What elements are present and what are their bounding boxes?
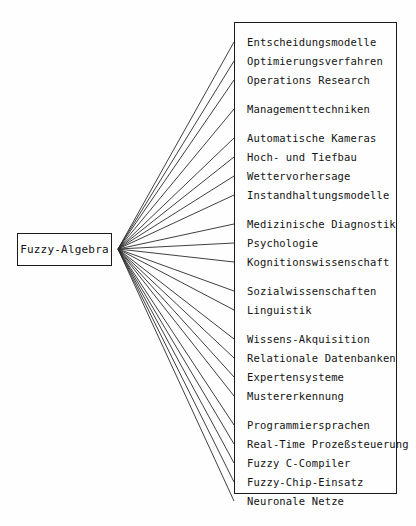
application-item[interactable]: Instandhaltungsmodelle [247,186,389,205]
application-item[interactable]: Managementtechniken [247,100,370,119]
root-node-label: Fuzzy-Algebra [20,243,109,256]
application-item[interactable]: Medizinische Diagnostik [247,215,396,234]
application-item[interactable]: Kognitionswissenschaft [247,253,389,272]
connector-line [118,249,234,463]
application-item[interactable]: Psychologie [247,234,318,253]
application-item[interactable]: Programmiersprachen [247,416,370,435]
application-item[interactable]: Fuzzy-Chip-Einsatz [247,473,364,492]
application-item[interactable]: Relationale Datenbanken [247,349,396,368]
diagram-canvas: Fuzzy-Algebra EntscheidungsmodelleOptimi… [0,0,416,526]
application-item[interactable]: Sozialwissenschaften [247,282,376,301]
application-item[interactable]: Wissens-Akquisition [247,330,370,349]
application-item[interactable]: Neuronale Netze [247,492,344,511]
root-node-fuzzy-algebra[interactable]: Fuzzy-Algebra [17,233,112,266]
application-item[interactable]: Linguistik [247,301,312,320]
connector-line [118,249,234,444]
connector-line [118,249,234,425]
application-item[interactable]: Entscheidungsmodelle [247,33,376,52]
connector-line [118,249,234,377]
application-item[interactable]: Hoch- und Tiefbau [247,148,357,167]
applications-list: EntscheidungsmodelleOptimierungsverfahre… [247,22,407,494]
connector-line [118,42,234,249]
application-item[interactable]: Optimierungsverfahren [247,52,383,71]
application-item[interactable]: Wettervorhersage [247,167,351,186]
connector-line [118,249,234,358]
connector-line [118,249,234,339]
application-item[interactable]: Fuzzy C-Compiler [247,454,351,473]
connector-line [118,249,234,310]
connector-line [118,176,234,249]
connector-line [118,249,234,482]
connector-line [118,243,234,249]
application-item[interactable]: Mustererkennung [247,387,344,406]
application-item[interactable]: Automatische Kameras [247,129,376,148]
application-item[interactable]: Expertensysteme [247,368,344,387]
application-item[interactable]: Operations Research [247,71,370,90]
connector-line [118,80,234,249]
application-item[interactable]: Real-Time Prozeßsteuerung [247,435,409,454]
connector-line [118,249,234,501]
